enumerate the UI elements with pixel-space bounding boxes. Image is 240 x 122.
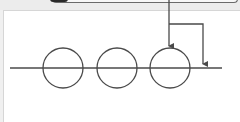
arrow-to-line xyxy=(169,24,203,64)
diagram-canvas xyxy=(0,0,240,122)
